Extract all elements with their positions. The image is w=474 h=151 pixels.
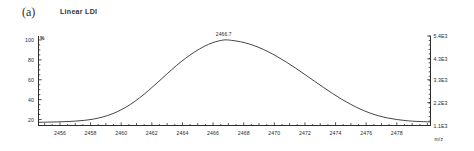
spectrum-plot-svg	[0, 0, 474, 151]
plot-area: % m/z 2466.7 204060801001.1E32.2E33.3E34…	[0, 0, 474, 151]
y-axis-right-minor-ticks	[429, 36, 431, 126]
axis-lines	[39, 36, 431, 126]
spectrum-figure: (a) Linear LDI % m/z 2466.7 204060801001…	[0, 0, 474, 151]
spectrum-trace	[39, 40, 431, 122]
